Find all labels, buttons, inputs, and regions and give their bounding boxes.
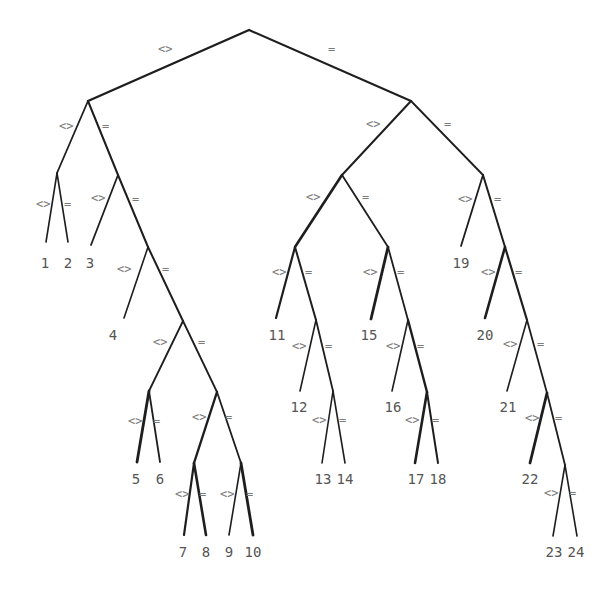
tree-edge: [217, 392, 241, 463]
tree-edge: [485, 247, 505, 318]
tree-edge: [118, 175, 148, 247]
tree-edge: [148, 247, 183, 321]
leaf-label: 10: [245, 544, 262, 560]
tree-edge: [91, 175, 118, 245]
leaf-label: 1: [41, 255, 49, 271]
leaf-label: 24: [568, 544, 585, 560]
tree-edge: [88, 101, 118, 175]
tree-edge: [427, 392, 438, 463]
branch-label-equal: =: [153, 414, 160, 428]
tree-edge: [547, 393, 565, 465]
branch-label-not-equal: <>: [192, 410, 206, 424]
branch-label-not-equal: <>: [481, 265, 495, 279]
tree-edge: [342, 175, 388, 247]
tree-edge: [124, 247, 148, 318]
leaf-label: 16: [385, 399, 402, 415]
tree-edge: [249, 30, 411, 101]
branch-label-not-equal: <>: [306, 190, 320, 204]
tree-edge: [411, 101, 483, 175]
tree-edge: [408, 320, 427, 392]
leaf-label: 19: [453, 255, 470, 271]
leaf-label: 5: [132, 471, 140, 487]
branch-label-equal: =: [162, 262, 169, 276]
tree-edge: [295, 175, 342, 247]
branch-label-equal: =: [64, 197, 71, 211]
branch-label-not-equal: <>: [128, 414, 142, 428]
branch-label-equal: =: [397, 265, 404, 279]
branch-label-equal: =: [537, 337, 544, 351]
branch-label-not-equal: <>: [153, 335, 167, 349]
leaf-label: 15: [361, 327, 378, 343]
branch-label-not-equal: <>: [525, 411, 539, 425]
leaf-label: 6: [156, 471, 164, 487]
branch-label-equal: =: [225, 410, 232, 424]
branch-label-not-equal: <>: [220, 487, 234, 501]
branch-label-not-equal: <>: [272, 265, 286, 279]
branch-label-not-equal: <>: [312, 413, 326, 427]
leaf-label: 17: [408, 471, 425, 487]
leaf-label: 14: [337, 471, 354, 487]
leaf-label: 13: [315, 471, 332, 487]
branch-label-equal: =: [325, 339, 332, 353]
tree-edge: [295, 247, 316, 320]
leaf-labels: 123456789101112131415161718192021222324: [41, 255, 585, 560]
leaf-label: 23: [546, 544, 563, 560]
leaf-label: 18: [430, 471, 447, 487]
branch-label-equal: =: [569, 486, 576, 500]
tree-edge: [565, 465, 577, 536]
branch-label-equal: =: [515, 265, 522, 279]
branch-label-equal: =: [199, 487, 206, 501]
branch-label-equal: =: [417, 339, 424, 353]
branch-label-not-equal: <>: [158, 42, 172, 56]
tree-edge: [183, 321, 217, 392]
branch-label-equal: =: [246, 487, 253, 501]
branch-label-equal: =: [132, 192, 139, 206]
leaf-label: 4: [109, 327, 117, 343]
tree-edge: [483, 175, 505, 247]
branch-label-not-equal: <>: [117, 262, 131, 276]
branch-label-not-equal: <>: [36, 197, 50, 211]
tree-edge: [300, 320, 316, 391]
leaf-label: 2: [64, 255, 72, 271]
tree-edge: [415, 392, 427, 463]
branch-label-not-equal: <>: [59, 119, 73, 133]
tree-edge: [505, 247, 527, 320]
tree-edge: [342, 101, 411, 175]
branch-label-not-equal: <>: [458, 192, 472, 206]
leaf-label: 12: [291, 399, 308, 415]
leaf-label: 22: [522, 471, 539, 487]
tree-edge: [388, 247, 408, 320]
tree-edge: [57, 101, 88, 173]
tree-edge: [194, 392, 217, 463]
branch-label-not-equal: <>: [405, 413, 419, 427]
branch-label-not-equal: <>: [292, 339, 306, 353]
tree-edge: [553, 465, 565, 536]
branch-label-equal: =: [328, 42, 335, 56]
branch-label-not-equal: <>: [386, 339, 400, 353]
branch-label-equal: =: [494, 192, 501, 206]
tree-edge: [371, 247, 388, 319]
tree-edge: [149, 321, 183, 391]
branch-label-not-equal: <>: [544, 486, 558, 500]
branch-label-equal: =: [444, 117, 451, 131]
tree-edge: [527, 320, 547, 393]
tree-edge: [276, 247, 295, 318]
leaf-label: 20: [477, 327, 494, 343]
leaf-label: 9: [225, 544, 233, 560]
decision-tree-diagram: <>=<>=<>=<>=<>=<>=<>=<>=<>=<>=<>=<>=<>=<…: [0, 0, 613, 594]
leaf-label: 3: [86, 255, 94, 271]
branch-label-not-equal: <>: [363, 265, 377, 279]
branch-label-equal: =: [198, 335, 205, 349]
tree-edge: [316, 320, 333, 391]
branch-label-not-equal: <>: [91, 191, 105, 205]
branch-label-not-equal: <>: [503, 337, 517, 351]
leaf-label: 11: [269, 327, 286, 343]
branch-label-equal: =: [362, 190, 369, 204]
branch-label-equal: =: [305, 265, 312, 279]
tree-edge: [461, 175, 483, 246]
tree-edges: [46, 30, 577, 536]
branch-label-equal: =: [339, 413, 346, 427]
leaf-label: 7: [179, 544, 187, 560]
branch-label-equal: =: [432, 413, 439, 427]
branch-label-not-equal: <>: [366, 117, 380, 131]
